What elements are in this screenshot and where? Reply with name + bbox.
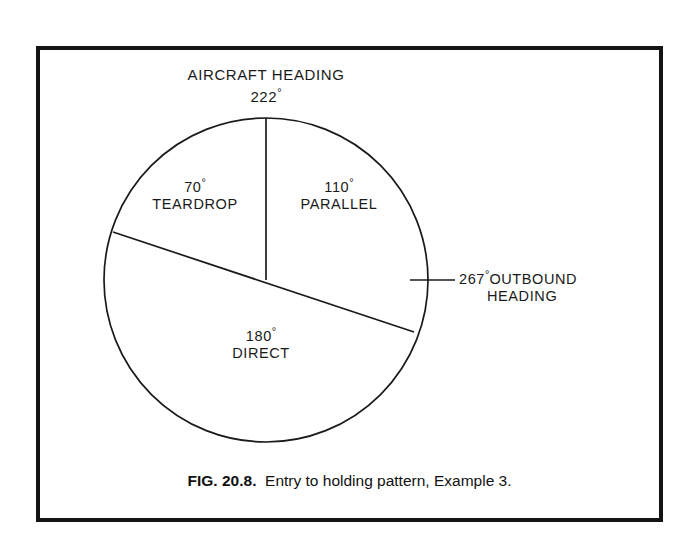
outbound-heading-text-line2: HEADING <box>459 288 639 305</box>
sector-divider-chord <box>113 232 414 332</box>
aircraft-heading-title: AIRCRAFT HEADING <box>0 66 532 84</box>
degree-symbol-icon: ° <box>277 86 281 98</box>
teardrop-angle-value: 70 <box>184 179 201 195</box>
figure-caption: FIG. 20.8. Entry to holding pattern, Exa… <box>46 472 653 490</box>
direct-angle-value: 180 <box>246 328 272 344</box>
outbound-heading-text-line1: OUTBOUND <box>489 271 577 287</box>
degree-symbol-icon: ° <box>272 325 276 337</box>
aircraft-heading-value: 222° <box>0 86 532 106</box>
sector-label-direct: 180°DIRECT <box>196 325 326 362</box>
figure-caption-number: FIG. 20.8. <box>188 472 257 489</box>
degree-symbol-icon: ° <box>201 176 205 188</box>
degree-symbol-icon: ° <box>349 176 353 188</box>
direct-name: DIRECT <box>232 345 290 361</box>
parallel-name: PARALLEL <box>300 196 377 212</box>
outbound-heading-label: 267°OUTBOUNDHEADING <box>459 268 639 305</box>
figure-caption-text: Entry to holding pattern, Example 3. <box>265 472 511 489</box>
sector-label-parallel: 110°PARALLEL <box>274 176 404 213</box>
aircraft-heading-number: 222 <box>250 88 277 105</box>
teardrop-name: TEARDROP <box>152 196 237 212</box>
parallel-angle-value: 110 <box>324 179 349 195</box>
figure-page: AIRCRAFT HEADING 222° 70°TEARDROP 110°PA… <box>0 0 699 544</box>
outbound-heading-value: 267 <box>459 271 485 287</box>
sector-label-teardrop: 70°TEARDROP <box>130 176 260 213</box>
